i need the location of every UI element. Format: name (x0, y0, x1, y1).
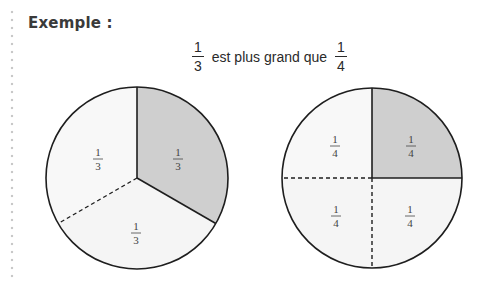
svg-text:1: 1 (408, 133, 414, 145)
quarters-circle: 1 4 1 4 1 4 1 4 (282, 88, 462, 268)
svg-text:1: 1 (332, 133, 338, 145)
svg-text:3: 3 (175, 160, 181, 172)
svg-text:1: 1 (95, 146, 101, 158)
svg-text:4: 4 (408, 147, 414, 159)
svg-text:1: 1 (333, 203, 339, 215)
svg-text:3: 3 (133, 234, 139, 246)
svg-text:4: 4 (333, 217, 339, 229)
svg-text:1: 1 (133, 220, 139, 232)
thirds-circle: 1 3 1 3 1 3 (46, 87, 228, 269)
quarters-sector-upper-left (282, 88, 372, 178)
fraction-circles: 1 3 1 3 1 3 1 4 1 (0, 0, 491, 286)
svg-text:3: 3 (95, 160, 101, 172)
quarters-sector-shaded (372, 88, 462, 178)
svg-text:4: 4 (407, 217, 413, 229)
svg-text:4: 4 (332, 147, 338, 159)
svg-text:1: 1 (175, 146, 181, 158)
svg-text:1: 1 (407, 203, 413, 215)
